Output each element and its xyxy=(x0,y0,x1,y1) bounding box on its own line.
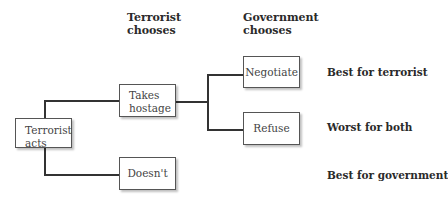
connector-to-refuse xyxy=(207,129,243,131)
connector-gov-vertical xyxy=(207,74,209,130)
node-doesnt: Doesn't xyxy=(119,157,176,190)
node-takes-hostage: Takes hostage xyxy=(119,84,176,117)
outcome-negotiate: Best for terrorist xyxy=(327,66,428,78)
connector-root-up xyxy=(44,100,46,118)
connector-to-takes-hostage xyxy=(44,100,119,102)
connector-to-doesnt xyxy=(44,174,119,176)
node-negotiate: Negotiate xyxy=(243,56,300,88)
header-terrorist-chooses: Terrorist chooses xyxy=(127,11,197,37)
node-refuse: Refuse xyxy=(243,112,300,145)
connector-root-down xyxy=(44,148,46,175)
outcome-refuse: Worst for both xyxy=(327,121,412,133)
connector-to-negotiate xyxy=(207,74,243,76)
connector-hostage-out xyxy=(176,101,207,103)
node-terrorist-acts: Terrorist acts xyxy=(15,118,72,148)
header-government-chooses: Government chooses xyxy=(243,11,323,37)
outcome-doesnt: Best for government xyxy=(327,169,448,181)
